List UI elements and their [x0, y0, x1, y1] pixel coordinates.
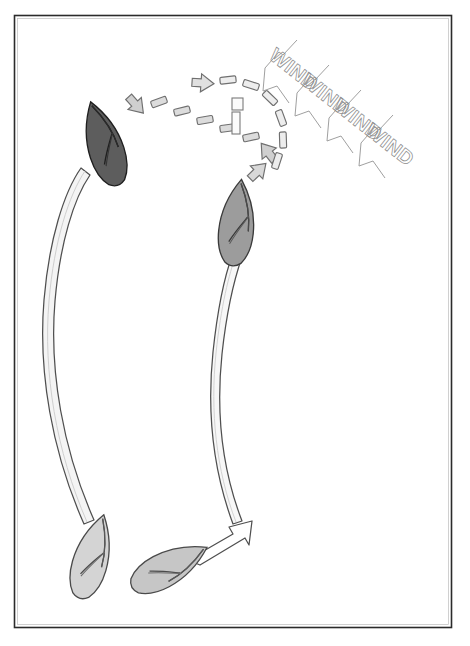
sailing-diagram: WIND WIND WIND WIND — [0, 0, 470, 646]
wake-track-left — [43, 168, 94, 524]
boat-bottom-right — [124, 532, 215, 602]
wind-center-marker — [232, 98, 243, 134]
dashed-tack-path — [122, 91, 282, 166]
diagram-canvas: WIND WIND WIND WIND — [0, 0, 470, 646]
boat-middle — [215, 178, 259, 268]
wind-arrow-group: WIND WIND WIND WIND — [263, 40, 419, 178]
wake-track-right — [211, 253, 242, 524]
boat-bottom-left — [63, 510, 120, 603]
